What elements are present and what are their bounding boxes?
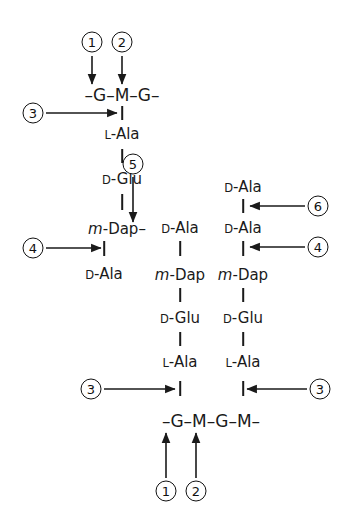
residue-prefix: m [218, 266, 233, 284]
residue-prefix: D [224, 222, 233, 236]
callout-2-top[interactable]: 2 [112, 32, 133, 53]
residue-body: -Dap [169, 266, 205, 284]
residue-d-ala-crosslink: D-Ala [161, 221, 199, 237]
residue-body: -Glu [169, 309, 200, 327]
residue-body: -Dap [232, 266, 268, 284]
bond-lala-bottomM-middle [179, 381, 181, 396]
top-glycan-chain: –G–M–G– [84, 87, 159, 104]
bond-dglu-mdap-top [121, 194, 123, 210]
bond-mdap-dglu-right [242, 288, 244, 302]
residue-body: -Ala [233, 219, 262, 237]
residue-m-dap-middle: m-Dap [155, 268, 205, 283]
residue-prefix: L [225, 356, 231, 370]
callout-5[interactable]: 5 [123, 154, 144, 175]
peptidoglycan-diagram: –G–M–G– L-Ala D-Glu m-Dap– D-Ala D-Ala m… [0, 0, 345, 524]
residue-l-ala-middle: L-Ala [162, 355, 197, 371]
residue-body: -Ala [94, 265, 123, 283]
bond-dglu-lala-middle [179, 332, 181, 346]
bond-topM-lala [121, 106, 123, 120]
residue-prefix: D [161, 222, 170, 236]
callout-6-right[interactable]: 6 [308, 196, 329, 217]
residue-prefix: D [102, 173, 111, 187]
residue-d-glu-middle: D-Glu [160, 311, 200, 327]
residue-prefix: L [162, 356, 168, 370]
callout-2-bottom[interactable]: 2 [186, 481, 207, 502]
callout-1-top[interactable]: 1 [82, 32, 103, 53]
residue-prefix: D [224, 181, 233, 195]
residue-body: -Dap– [103, 220, 146, 238]
bond-dglu-lala-right [242, 332, 244, 346]
callout-3-bottom-left[interactable]: 3 [81, 379, 102, 400]
bond-dala-mdap-right [242, 241, 244, 256]
bond-dala-mdap-middle [179, 241, 181, 256]
callout-4-right[interactable]: 4 [308, 237, 329, 258]
residue-m-dap-crosslink: m-Dap– [88, 222, 146, 237]
callout-3-bottom-right[interactable]: 3 [310, 379, 331, 400]
residue-prefix: m [88, 220, 103, 238]
residue-l-ala-right: L-Ala [225, 355, 260, 371]
bond-dala-dala-right [242, 199, 244, 213]
bottom-glycan-chain: –G–M–G–M– [162, 413, 260, 430]
callout-4-left[interactable]: 4 [23, 238, 44, 259]
residue-prefix: D [160, 312, 169, 326]
residue-d-ala-left-terminal: D-Ala [85, 267, 123, 283]
callout-3-top[interactable]: 3 [23, 103, 44, 124]
residue-m-dap-right: m-Dap [218, 268, 268, 283]
residue-body: -Ala [111, 125, 140, 143]
residue-l-ala-top: L-Ala [104, 127, 139, 143]
bond-lala-bottomM-right [242, 381, 244, 396]
callout-1-bottom[interactable]: 1 [156, 481, 177, 502]
residue-prefix: D [85, 268, 94, 282]
residue-body: -Ala [170, 219, 199, 237]
residue-body: -Ala [233, 178, 262, 196]
residue-prefix: D [223, 312, 232, 326]
residue-d-ala-right-terminal: D-Ala [224, 180, 262, 196]
residue-body: -Ala [169, 353, 198, 371]
residue-d-glu-right: D-Glu [223, 311, 263, 327]
bond-mdap-dglu-middle [179, 288, 181, 302]
arrow-layer [0, 0, 345, 524]
residue-d-ala-right-second: D-Ala [224, 221, 262, 237]
residue-prefix: L [104, 128, 110, 142]
residue-body: -Ala [232, 353, 261, 371]
residue-prefix: m [155, 266, 170, 284]
residue-d-glu-top: D-Glu [102, 172, 142, 188]
residue-body: -Glu [232, 309, 263, 327]
bond-mdap-dala-left [103, 241, 105, 256]
